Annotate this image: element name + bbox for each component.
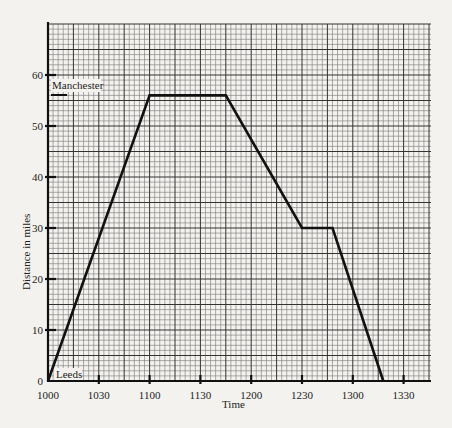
- x-tick-label: 1330: [393, 389, 416, 401]
- x-tick-label: 1130: [190, 389, 212, 401]
- leeds-label: Leeds: [56, 368, 82, 380]
- distance-time-graph: 1000103011001130120012301300133001020304…: [0, 0, 452, 428]
- grid-major-lines: [48, 24, 431, 381]
- x-tick-label: 1100: [139, 389, 161, 401]
- y-tick-label: 50: [32, 120, 44, 132]
- y-tick-label: 30: [32, 222, 44, 234]
- y-axis-title: Distance in miles: [20, 214, 32, 290]
- y-tick-label: 40: [32, 171, 44, 183]
- x-tick-label: 1230: [291, 389, 314, 401]
- y-tick-label: 0: [38, 375, 44, 387]
- x-axis-title: Time: [222, 398, 245, 410]
- x-tick-label: 1000: [37, 389, 60, 401]
- y-tick-label: 20: [32, 273, 44, 285]
- y-tick-label: 60: [32, 69, 44, 81]
- manchester-label: Manchester: [52, 79, 104, 91]
- x-tick-label: 1300: [342, 389, 365, 401]
- x-tick-label: 1030: [88, 389, 111, 401]
- y-tick-label: 10: [32, 324, 44, 336]
